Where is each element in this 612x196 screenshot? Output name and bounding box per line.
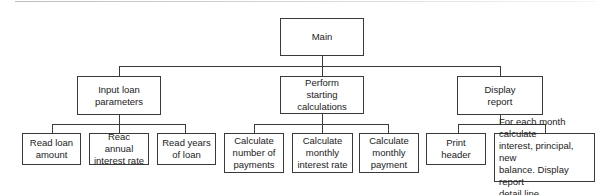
node-label: Calculate monthly payment [369,135,409,171]
node-label: Calculate monthly interest rate [297,135,347,171]
node-label: For each month calculate interest, princ… [499,116,590,196]
node-label: Calculate number of payments [233,135,276,171]
node-label: Input loan parameters [95,84,143,108]
connector [119,115,120,124]
node-read-years-of-loan: Read years of loan [157,133,216,165]
top-rule-divider [15,1,595,2]
node-main: Main [280,18,364,56]
connector [500,66,501,76]
connector [52,124,53,133]
node-label: Perform starting calculations [297,77,347,113]
node-read-loan-amount: Read loan amount [22,133,81,165]
node-perform-starting-calculations: Perform starting calculations [280,76,364,114]
node-read-annual-interest-rate: Reac annual interest rate [89,133,149,165]
connector [322,56,323,66]
node-calculate-number-of-payments: Calculate number of payments [224,133,284,173]
node-display-report: Display report [457,76,543,115]
connector [185,124,186,133]
node-label: Reac annual interest rate [93,131,145,167]
connector [119,66,120,76]
node-label: Read loan amount [30,137,73,161]
node-label: Main [312,31,333,43]
node-calculate-monthly-interest-rate: Calculate monthly interest rate [292,133,353,173]
node-label: Print header [441,137,471,161]
connector [458,124,459,133]
connector [322,114,323,124]
connector [119,66,501,67]
node-label: Read years of loan [162,137,211,161]
node-monthly-detail-line: For each month calculate interest, princ… [494,133,595,182]
connector [322,124,323,133]
node-calculate-monthly-payment: Calculate monthly payment [359,133,419,173]
connector [254,124,255,133]
node-print-header: Print header [426,133,486,165]
connector [322,66,323,76]
node-label: Display report [484,84,515,108]
node-input-loan-parameters: Input loan parameters [77,76,161,115]
connector [388,124,389,133]
